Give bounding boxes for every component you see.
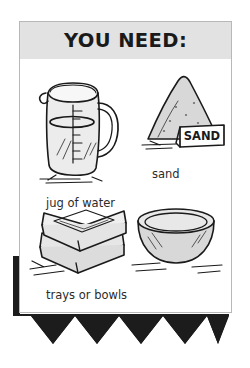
- materials-card: YOU NEED:: [19, 21, 232, 313]
- item-trays: [24, 191, 132, 283]
- caption-sand: sand: [152, 167, 180, 181]
- card-body: jug of water: [20, 59, 231, 312]
- caption-trays-or-bowls: trays or bowls: [46, 288, 127, 302]
- card-header: YOU NEED:: [20, 22, 231, 59]
- sand-sign-label: SAND: [184, 129, 220, 143]
- sand-pile-icon: SAND: [136, 69, 228, 161]
- item-bowl: [130, 199, 226, 281]
- item-jug-of-water: [26, 67, 130, 189]
- measuring-jug-icon: [26, 67, 130, 189]
- stacked-trays-icon: [24, 191, 132, 283]
- bowl-icon: [130, 199, 226, 281]
- item-sand: SAND: [136, 69, 228, 161]
- page-title: YOU NEED:: [64, 29, 187, 52]
